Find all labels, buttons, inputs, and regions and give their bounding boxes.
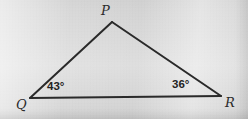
side-qr [30, 96, 221, 98]
geometry-figure: P Q R 43° 36° [0, 0, 248, 119]
triangle-diagram [0, 0, 248, 119]
side-pq [30, 22, 112, 98]
angle-label-q: 43° [47, 81, 64, 93]
vertex-label-p: P [101, 4, 110, 17]
angle-label-r: 36° [172, 79, 189, 91]
vertex-label-r: R [225, 96, 235, 109]
side-pr [112, 22, 221, 96]
vertex-label-q: Q [16, 98, 27, 111]
